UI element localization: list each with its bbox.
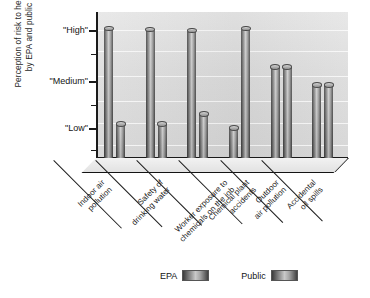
legend-swatch-public [271,270,298,281]
bar-shading [146,30,155,158]
gridline [98,123,348,124]
gridline [98,101,348,102]
bar-shading [104,29,113,158]
bar-epa-3 [187,31,196,158]
legend-swatch-epa [182,270,209,281]
y-axis-line [96,12,98,159]
bar-epa-6 [312,85,321,158]
bar-cap [187,28,197,34]
bar-cap [270,64,280,70]
y-tick-label-low: "Low" [65,123,88,133]
bar-public-2 [158,124,167,158]
legend-label-epa: EPA [160,271,177,281]
bar-epa-5 [271,67,280,158]
bar-cap [312,82,322,88]
bar-shading [229,128,238,158]
bar-cap [145,27,155,33]
legend: EPA Public [160,270,298,281]
bar-shading [187,31,196,158]
bar-cap [324,82,334,88]
gridline [98,30,348,31]
y-axis-title: Perception of risk to health by EPA and … [13,0,35,127]
gridline [98,51,348,52]
bar-public-6 [324,85,333,158]
bar-cap [229,125,239,131]
bar-shading [271,67,280,158]
bar-epa-1 [104,29,113,158]
y-tick-minor [91,54,97,55]
bar-epa-4 [229,128,238,158]
bar-cap [199,111,209,117]
bar-epa-2 [146,30,155,158]
bar-shading [324,85,333,158]
risk-perception-chart: Perception of risk to health by EPA and … [0,0,370,298]
bar-cap [282,64,292,70]
x-axis-label-6: Accidental oil spills [285,178,325,218]
gridline [98,145,348,146]
gridline [98,76,348,77]
legend-item-public[interactable]: Public [241,270,298,281]
bar-shading [199,114,208,158]
bar-cap [241,26,251,32]
chart-floor-3d [82,158,348,173]
y-tick-low [89,128,97,130]
y-tick-minor [91,105,97,106]
bar-public-4 [241,29,250,158]
legend-label-public: Public [241,271,266,281]
bar-shading [241,29,250,158]
y-tick-label-high: "High" [63,25,88,35]
y-tick-label-medium: "Medium" [50,76,88,86]
bar-shading [312,85,321,158]
bar-shading [116,124,125,158]
y-tick-minor [91,150,97,151]
x-axis-label-1: Indoor air pollution [76,178,114,216]
bar-cap [104,26,114,32]
y-tick-medium [89,81,97,83]
bar-shading [283,67,292,158]
bar-public-1 [116,124,125,158]
bar-cap [116,121,126,127]
legend-item-epa[interactable]: EPA [160,270,209,281]
y-tick-high [89,30,97,32]
bar-public-5 [283,67,292,158]
x-axis-label-2: Safety of drinking water [122,178,171,227]
bar-shading [158,124,167,158]
bar-public-3 [199,114,208,158]
bar-cap [157,121,167,127]
plot-area [98,12,348,158]
